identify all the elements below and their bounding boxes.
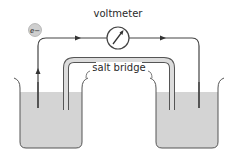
right-solution bbox=[156, 92, 218, 148]
flow-arrow-right-icon bbox=[75, 36, 81, 41]
flow-arrow-right-icon bbox=[160, 36, 166, 41]
electron-icon: e− bbox=[29, 24, 42, 37]
right-beaker bbox=[150, 78, 224, 148]
electron-label: e− bbox=[30, 27, 40, 35]
salt-bridge-label: salt bridge bbox=[92, 62, 145, 73]
voltmeter-label: voltmeter bbox=[94, 8, 144, 19]
voltmeter bbox=[107, 27, 129, 49]
electrochemical-cell-diagram: salt bridge voltmeter e− bbox=[0, 0, 231, 159]
left-beaker bbox=[14, 78, 88, 148]
flow-arrow-up-icon bbox=[36, 68, 41, 74]
left-solution bbox=[20, 92, 82, 148]
